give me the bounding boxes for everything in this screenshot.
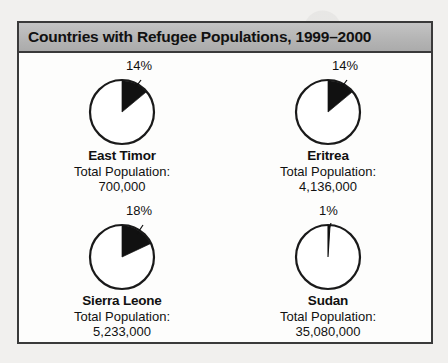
pie-svg-eritrea xyxy=(294,78,362,146)
figure-title: Countries with Refugee Populations, 1999… xyxy=(28,28,371,46)
population-label-sierra-leone: Total Population: xyxy=(74,309,170,324)
figure-title-bar: Countries with Refugee Populations, 1999… xyxy=(19,23,431,53)
pie-graphic-east-timor: 14% xyxy=(68,59,176,145)
population-label-eritrea: Total Population: xyxy=(280,164,376,179)
population-value-eritrea: 4,136,000 xyxy=(299,179,357,194)
population-value-sudan: 35,080,000 xyxy=(295,324,360,339)
population-label-sudan: Total Population: xyxy=(280,309,376,324)
country-name-sierra-leone: Sierra Leone xyxy=(82,293,161,308)
pie-svg-sierra-leone xyxy=(88,223,156,291)
pie-chart-eritrea: 14% Eritrea Total Population: 4,136,000 xyxy=(225,53,431,198)
population-label-east-timor: Total Population: xyxy=(74,164,170,179)
pie-chart-sierra-leone: 18% Sierra Leone Total Population: 5,233… xyxy=(19,198,225,343)
percent-label-sierra-leone: 18% xyxy=(126,203,152,218)
country-name-eritrea: Eritrea xyxy=(307,148,348,163)
pie-svg-sudan xyxy=(294,223,362,291)
pie-graphic-sierra-leone: 18% xyxy=(68,204,176,290)
pie-svg-east-timor xyxy=(88,78,156,146)
country-name-east-timor: East Timor xyxy=(88,148,156,163)
pie-graphic-sudan: 1% xyxy=(274,204,382,290)
figure-frame: Countries with Refugee Populations, 1999… xyxy=(17,21,433,344)
population-value-sierra-leone: 5,233,000 xyxy=(93,324,151,339)
population-value-east-timor: 700,000 xyxy=(99,179,146,194)
percent-label-east-timor: 14% xyxy=(126,58,152,73)
country-name-sudan: Sudan xyxy=(308,293,348,308)
pie-graphic-eritrea: 14% xyxy=(274,59,382,145)
percent-label-eritrea: 14% xyxy=(332,58,358,73)
pie-chart-east-timor: 14% East Timor Total Population: 700,000 xyxy=(19,53,225,198)
pie-chart-grid: 14% East Timor Total Population: 700,000… xyxy=(19,53,431,342)
pie-chart-sudan: 1% Sudan Total Population: 35,080,000 xyxy=(225,198,431,343)
percent-label-sudan: 1% xyxy=(319,203,338,218)
